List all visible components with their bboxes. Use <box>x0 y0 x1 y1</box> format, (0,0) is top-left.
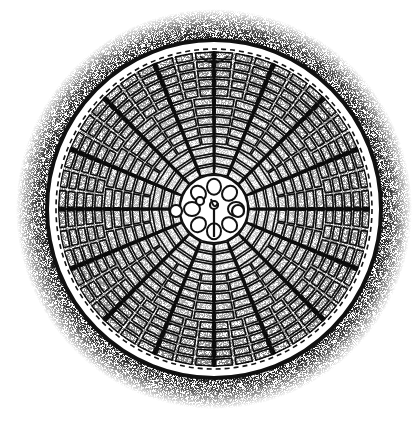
diatom-illustration <box>0 0 415 421</box>
